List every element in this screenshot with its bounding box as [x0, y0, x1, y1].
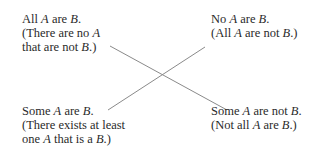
variable: B	[81, 40, 89, 54]
statement-line: No A are B.	[211, 12, 297, 26]
variable: A	[41, 12, 49, 26]
variable: A	[43, 132, 51, 146]
statement-line: All A are B.	[22, 12, 100, 26]
variable: B	[70, 12, 78, 26]
variable: B	[283, 26, 291, 40]
statement-line: one A that is a B.)	[22, 132, 125, 146]
statement-line: that are not B.)	[22, 40, 100, 54]
statement-all-a-are-b: All A are B.(There are no Athat are not …	[22, 12, 100, 54]
statement-line: (There are no A	[22, 26, 100, 40]
edge-all-to-some-not	[110, 46, 227, 110]
variable: B	[96, 132, 104, 146]
statement-line: (There exists at least	[22, 118, 125, 132]
statement-no-a-are-b: No A are B.(All A are not B.)	[211, 12, 297, 40]
edge-some-to-no	[108, 47, 205, 110]
statement-some-a-are-b: Some A are B.(There exists at leastone A…	[22, 104, 125, 146]
variable: B	[291, 104, 299, 118]
variable: A	[92, 26, 100, 40]
statement-line: (Not all A are B.)	[211, 118, 302, 132]
variable: A	[229, 12, 237, 26]
statement-line: Some A are not B.	[211, 104, 302, 118]
statement-some-a-are-not-b: Some A are not B.(Not all A are B.)	[211, 104, 302, 132]
statement-line: (All A are not B.)	[211, 26, 297, 40]
statement-line: Some A are B.	[22, 104, 125, 118]
variable: A	[234, 26, 242, 40]
